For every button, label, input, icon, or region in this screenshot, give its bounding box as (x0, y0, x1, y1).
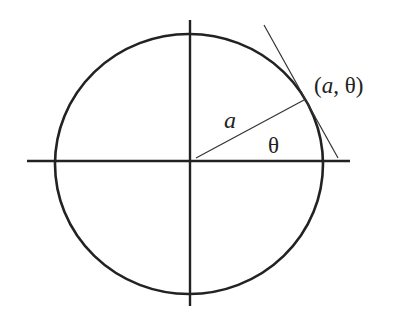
polar-diagram: (a, θ) a θ (0, 0, 398, 321)
angle-label: θ (268, 133, 279, 158)
radius-label: a (224, 107, 236, 133)
radius-line (196, 100, 304, 158)
point-label: (a, θ) (314, 73, 363, 98)
